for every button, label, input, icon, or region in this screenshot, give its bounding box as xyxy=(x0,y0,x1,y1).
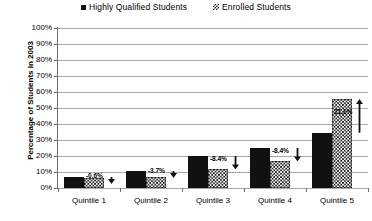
x-axis-tick-label: Quintile 5 xyxy=(306,196,368,205)
x-axis-tick-mark xyxy=(244,188,245,192)
arrow-down-icon xyxy=(232,156,239,169)
bar-highly-qualified xyxy=(250,148,270,188)
x-axis-tick-label: Quintile 3 xyxy=(182,196,244,205)
y-axis-tick-mark xyxy=(54,28,58,29)
bar-highly-qualified xyxy=(188,156,208,188)
y-axis-tick-label: 70% xyxy=(22,72,52,80)
y-axis-tick-label: 30% xyxy=(22,136,52,144)
x-axis-tick-label: Quintile 4 xyxy=(244,196,306,205)
y-axis-tick-label: 60% xyxy=(22,88,52,96)
plot-area: 100%90%80%70%60%50%40%30%20%10%0%-0.6%-3… xyxy=(58,28,368,188)
difference-label: -8.4% xyxy=(272,147,289,154)
y-axis-tick-mark xyxy=(54,60,58,61)
gridline xyxy=(58,76,368,77)
x-axis-tick-mark xyxy=(182,188,183,192)
y-axis-tick-label: 90% xyxy=(22,40,52,48)
bar-enrolled xyxy=(208,169,228,188)
y-axis-tick-mark xyxy=(54,108,58,109)
y-axis-tick-mark xyxy=(54,124,58,125)
y-axis-tick-label: 80% xyxy=(22,56,52,64)
gridline xyxy=(58,44,368,45)
x-axis-tick-label: Quintile 1 xyxy=(58,196,120,205)
gridline xyxy=(58,60,368,61)
bar-enrolled xyxy=(270,161,290,188)
arrow-down-icon xyxy=(294,148,301,161)
gridline xyxy=(58,108,368,109)
legend-item-enrolled: Enrolled Students xyxy=(213,2,291,12)
gridline xyxy=(58,92,368,93)
legend-item-highly-qualified: Highly Qualified Students xyxy=(81,2,187,12)
legend-label-highly-qualified: Highly Qualified Students xyxy=(89,2,187,12)
gridline xyxy=(58,124,368,125)
arrow-down-icon xyxy=(170,171,177,178)
y-axis-tick-mark xyxy=(54,92,58,93)
chart-legend: Highly Qualified Students Enrolled Stude… xyxy=(0,2,372,12)
x-axis-tick-label: Quintile 2 xyxy=(120,196,182,205)
x-axis-tick-mark xyxy=(120,188,121,192)
y-axis-tick-label: 50% xyxy=(22,104,52,112)
y-axis-tick-mark xyxy=(54,156,58,157)
bar-enrolled xyxy=(146,177,166,188)
difference-label: 21.1% xyxy=(334,108,352,115)
x-axis-tick-mark xyxy=(58,188,59,192)
checkered-square-icon xyxy=(213,4,219,10)
difference-label: -8.4% xyxy=(210,155,227,162)
bar-highly-qualified xyxy=(126,171,146,188)
y-axis-tick-mark xyxy=(54,76,58,77)
arrow-up-icon xyxy=(356,99,363,133)
difference-label: -0.6% xyxy=(86,172,103,179)
y-axis-tick-mark xyxy=(54,172,58,173)
y-axis-tick-mark xyxy=(54,140,58,141)
difference-label: -3.7% xyxy=(148,167,165,174)
y-axis-tick-label: 0% xyxy=(22,184,52,192)
gridline xyxy=(58,188,368,189)
y-axis-tick-label: 10% xyxy=(22,168,52,176)
y-axis-tick-mark xyxy=(54,44,58,45)
bar-highly-qualified xyxy=(312,133,332,188)
solid-square-icon xyxy=(81,5,86,10)
arrow-down-icon xyxy=(108,177,115,184)
bar-enrolled xyxy=(84,178,104,188)
x-axis-tick-mark xyxy=(306,188,307,192)
gridline xyxy=(58,28,368,29)
y-axis-tick-label: 20% xyxy=(22,152,52,160)
legend-label-enrolled: Enrolled Students xyxy=(222,2,291,12)
bar-highly-qualified xyxy=(64,177,84,188)
y-axis-tick-label: 100% xyxy=(22,24,52,32)
y-axis-tick-label: 40% xyxy=(22,120,52,128)
x-axis-tick-mark xyxy=(368,188,369,192)
bar-chart: Highly Qualified Students Enrolled Stude… xyxy=(0,0,372,221)
